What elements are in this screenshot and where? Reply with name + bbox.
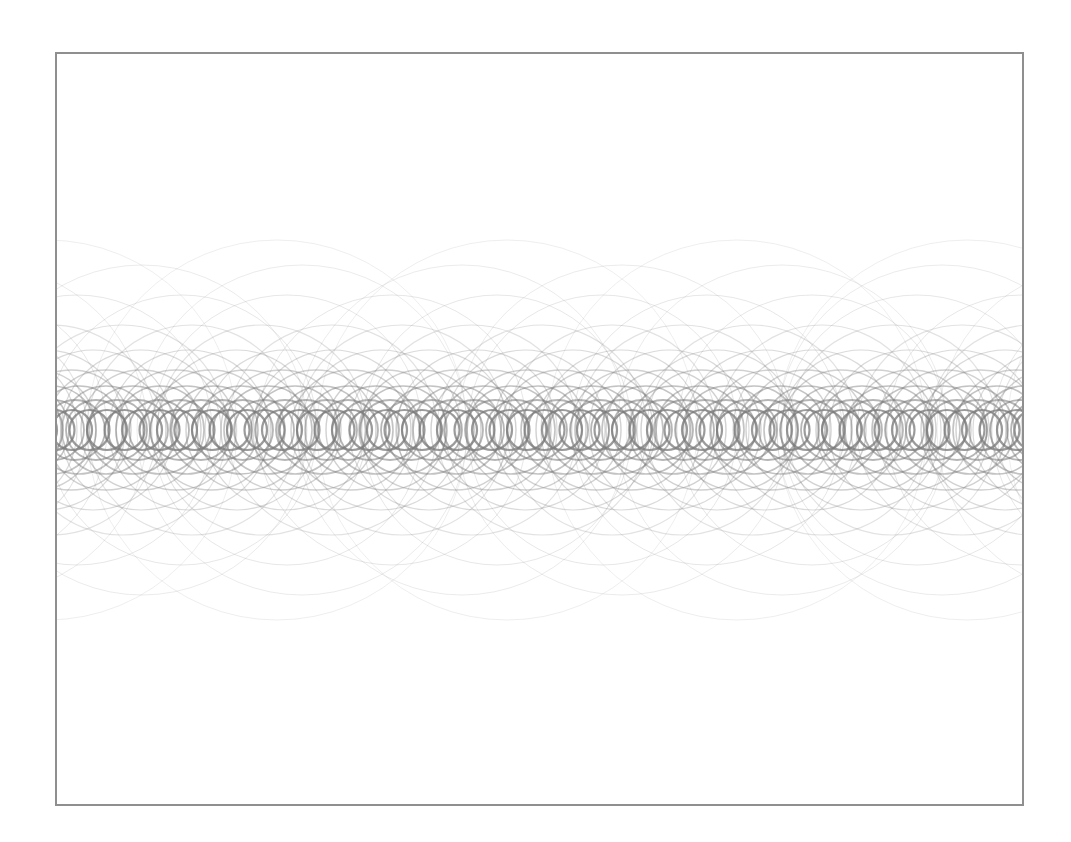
- overlapping-circles-pattern: [57, 54, 1022, 804]
- artwork-frame: [55, 52, 1024, 806]
